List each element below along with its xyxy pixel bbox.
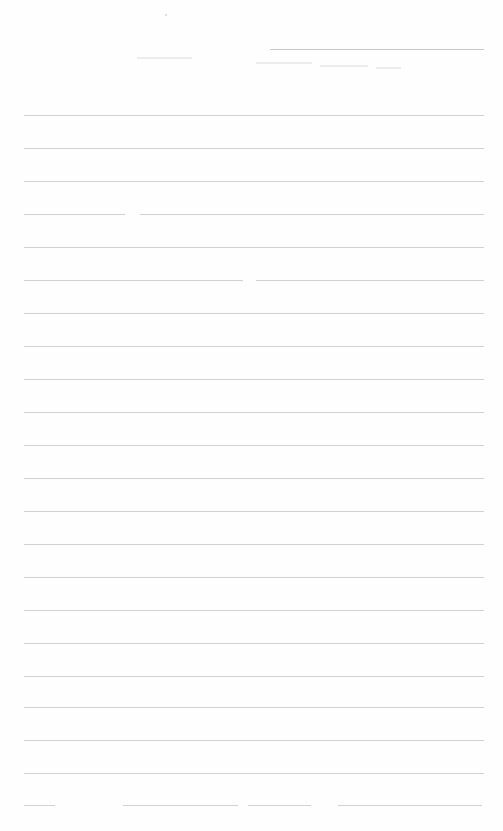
ruled-line	[24, 346, 484, 347]
ruled-line	[24, 280, 243, 281]
ruled-line	[24, 148, 484, 149]
faint-header-mark	[256, 62, 312, 64]
ruled-line	[24, 707, 484, 708]
ruled-line	[256, 280, 484, 281]
ruled-line	[24, 773, 484, 774]
ruled-line	[24, 445, 484, 446]
faint-header-mark	[376, 67, 401, 69]
ruled-line	[24, 740, 484, 741]
ruled-line	[24, 115, 484, 116]
ruled-line	[24, 181, 484, 182]
footer-field-line	[248, 805, 311, 806]
faint-header-mark	[320, 65, 368, 67]
ruled-line	[140, 214, 484, 215]
ruled-line	[24, 412, 484, 413]
ruled-line	[24, 676, 484, 677]
ruled-line	[24, 643, 484, 644]
ruled-line	[24, 577, 484, 578]
footer-field-line	[123, 805, 238, 806]
footer-field-line	[338, 805, 482, 806]
ruled-line	[24, 247, 484, 248]
ruled-line	[24, 313, 484, 314]
ruled-line	[24, 511, 484, 512]
footer-field-line	[24, 805, 55, 806]
faint-header-mark	[137, 57, 192, 59]
ruled-line	[24, 379, 484, 380]
ruled-line	[24, 214, 125, 215]
ruled-line	[24, 610, 484, 611]
scan-speck	[165, 14, 167, 16]
ruled-line	[24, 544, 484, 545]
lined-paper-page	[0, 0, 503, 831]
ruled-line	[24, 478, 484, 479]
header-title-line	[270, 49, 484, 50]
